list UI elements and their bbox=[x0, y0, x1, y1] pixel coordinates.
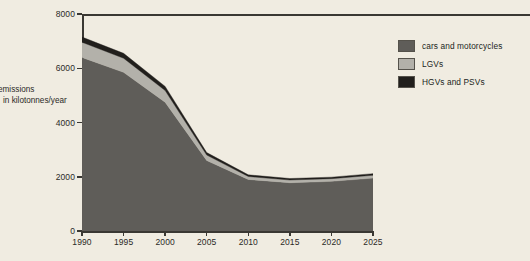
y-tick-label: 2000 bbox=[56, 172, 75, 182]
legend-item-label: cars and motorcycles bbox=[422, 41, 502, 51]
y-tick-mark bbox=[77, 13, 82, 15]
x-tick-label: 1995 bbox=[114, 237, 133, 247]
y-tick-mark bbox=[77, 176, 82, 178]
legend-item-label: HGVs and PSVs bbox=[422, 77, 485, 87]
x-tick-mark bbox=[331, 231, 333, 236]
y-tick-mark bbox=[77, 122, 82, 124]
x-tick-mark bbox=[206, 231, 208, 236]
legend-item: cars and motorcycles bbox=[398, 40, 528, 51]
y-tick-label: 0 bbox=[70, 226, 75, 236]
legend-item: HGVs and PSVs bbox=[398, 76, 528, 87]
chart-legend: cars and motorcyclesLGVsHGVs and PSVs bbox=[398, 40, 528, 94]
x-tick-label: 2020 bbox=[322, 237, 341, 247]
y-tick-label: 6000 bbox=[56, 63, 75, 73]
x-tick-label: 1990 bbox=[72, 237, 91, 247]
y-axis-title-line-1: emissions bbox=[0, 84, 80, 95]
x-tick-mark bbox=[164, 231, 166, 236]
area-series-cars-and-motorcycles bbox=[82, 57, 373, 231]
legend-swatch-icon bbox=[398, 76, 415, 88]
x-tick-mark bbox=[289, 231, 291, 236]
x-tick-label: 2000 bbox=[155, 237, 174, 247]
legend-swatch-icon bbox=[398, 58, 415, 70]
legend-item-label: LGVs bbox=[422, 59, 443, 69]
x-tick-mark bbox=[372, 231, 374, 236]
x-tick-label: 2025 bbox=[363, 237, 382, 247]
x-tick-mark bbox=[248, 231, 250, 236]
stacked-area-plot bbox=[82, 14, 373, 231]
plot-area: 02000400060008000 1990199520002005201020… bbox=[82, 14, 373, 231]
x-tick-label: 2010 bbox=[239, 237, 258, 247]
legend-swatch-icon bbox=[398, 40, 415, 52]
chart-root: emissions in kilotonnes/year 02000400060… bbox=[0, 0, 530, 261]
y-axis-title: emissions in kilotonnes/year bbox=[0, 84, 80, 106]
legend-item: LGVs bbox=[398, 58, 528, 69]
y-tick-label: 8000 bbox=[56, 9, 75, 19]
y-tick-label: 4000 bbox=[56, 118, 75, 128]
y-tick-mark bbox=[77, 68, 82, 70]
x-tick-label: 2005 bbox=[197, 237, 216, 247]
x-tick-mark bbox=[123, 231, 125, 236]
y-axis-title-line-2: in kilotonnes/year bbox=[0, 95, 80, 106]
x-tick-mark bbox=[81, 231, 83, 236]
x-tick-label: 2015 bbox=[280, 237, 299, 247]
